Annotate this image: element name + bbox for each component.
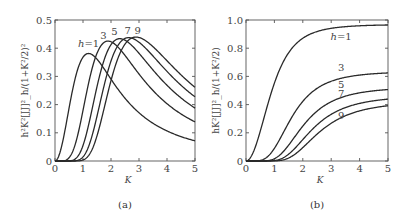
curve-label: h=1 (331, 31, 352, 42)
curve-label: h=1 (78, 38, 99, 49)
curve-label: 7 (125, 25, 131, 36)
y-tick-label: 0.6 (227, 71, 243, 82)
curve-label: 9 (134, 25, 140, 36)
x-tick-label: 2 (108, 163, 114, 174)
curve-h1 (55, 53, 195, 161)
y-tick-label: 0.4 (36, 43, 52, 54)
y-tick-label: 0 (46, 156, 52, 167)
x-tick-label: 4 (356, 163, 362, 174)
y-tick-label: 0.2 (227, 127, 243, 138)
curve-label: 9 (338, 110, 344, 121)
x-tick-label: 4 (164, 163, 170, 174)
x-tick-label: 1 (271, 163, 277, 174)
x-axis-label: K (124, 175, 133, 185)
y-tick-label: 0.8 (227, 43, 243, 54)
y-tick-label: 0.3 (36, 71, 52, 82)
plot-frame (246, 20, 388, 161)
curve-h3 (55, 41, 195, 161)
figure: 01234500.10.20.30.40.5Kh²K²[JJ]²_h/(1+K²… (0, 0, 407, 216)
x-tick-label: 3 (136, 163, 142, 174)
x-tick-label: 1 (80, 163, 86, 174)
y-tick-label: 1.0 (227, 15, 243, 26)
y-tick-label: 0.1 (36, 127, 52, 138)
panel-b-chart: 01234500.20.40.60.81.0KhK²[JJ]²_h/(1+K²/… (211, 15, 391, 186)
y-tick-label: 0.2 (36, 99, 52, 110)
y-tick-label: 0.5 (36, 15, 52, 26)
x-tick-label: 3 (328, 163, 334, 174)
curve-label: 3 (100, 30, 106, 41)
curve-h3 (246, 73, 388, 161)
x-tick-label: 0 (243, 163, 249, 174)
y-tick-label: 0.4 (227, 99, 243, 110)
x-tick-label: 5 (385, 163, 391, 174)
panel-a-chart: 01234500.10.20.30.40.5Kh²K²[JJ]²_h/(1+K²… (20, 15, 198, 186)
caption-b: (b) (310, 199, 324, 210)
curve-label: 7 (338, 88, 344, 99)
y-axis-label: h²K²[JJ]²_h/(1+K²/2)² (20, 43, 31, 137)
y-axis-label: hK²[JJ]²_h/(1+K²/2) (211, 47, 222, 134)
curve-label: 5 (111, 26, 117, 37)
x-tick-label: 0 (52, 163, 58, 174)
curve-h1 (246, 25, 388, 161)
x-tick-label: 5 (192, 163, 198, 174)
curve-h9 (246, 106, 388, 161)
curve-label: 3 (338, 62, 344, 73)
x-axis-label: K (316, 175, 325, 185)
caption-a: (a) (118, 199, 132, 210)
y-tick-label: 0 (237, 156, 243, 167)
x-tick-label: 2 (300, 163, 306, 174)
